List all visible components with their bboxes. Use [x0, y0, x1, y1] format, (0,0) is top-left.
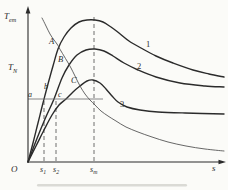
point-a-label: a: [28, 90, 32, 99]
x-axis-arrow-icon: [219, 160, 227, 165]
point-b-label: b: [44, 82, 48, 91]
tick-sm: sm: [90, 165, 97, 175]
x-axis-label: s: [212, 163, 216, 173]
point-c-label: c: [58, 90, 62, 99]
curve3-label: 3: [120, 99, 124, 109]
caption-smudge: [37, 184, 187, 186]
chart-canvas: Tem TN O s s1 s2 sm 1 2 3 A B C a b c: [0, 0, 228, 190]
torque-slip-figure: Tem TN O s s1 s2 sm 1 2 3 A B C a b c: [0, 0, 228, 190]
y-axis-arrow-icon: [26, 6, 31, 14]
curve2-label: 2: [137, 61, 141, 71]
point-A-label: A: [48, 36, 55, 46]
tick-s2: s2: [53, 165, 59, 175]
curve-2: [28, 49, 224, 162]
tick-s1: s1: [40, 165, 46, 175]
point-C-label: C: [71, 75, 77, 85]
point-B-label: B: [58, 54, 63, 64]
y-axis-label: Tem: [4, 11, 17, 23]
origin-label: O: [11, 164, 18, 174]
y-ref-label: TN: [8, 62, 18, 74]
curve1-label: 1: [146, 39, 150, 49]
